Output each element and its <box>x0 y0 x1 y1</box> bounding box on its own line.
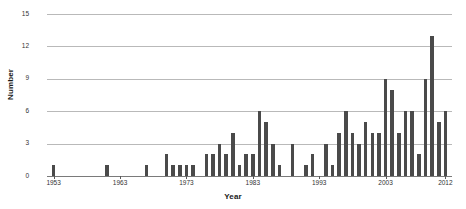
bar-1992 <box>311 154 315 176</box>
bar-2007 <box>410 111 414 176</box>
bar-1996 <box>337 133 341 176</box>
bar-1989 <box>291 144 295 176</box>
bar-1971 <box>171 165 175 176</box>
bar-1980 <box>231 133 235 176</box>
bar-1985 <box>264 122 268 176</box>
x-tick-label-2003: 2003 <box>366 180 406 187</box>
gridline-12 <box>47 46 452 47</box>
bar-1973 <box>185 165 189 176</box>
bar-1972 <box>178 165 182 176</box>
bar-1953 <box>52 165 56 176</box>
bar-1997 <box>344 111 348 176</box>
bar-1986 <box>271 144 275 176</box>
bar-2003 <box>384 79 388 176</box>
bar-1967 <box>145 165 149 176</box>
bar-1995 <box>331 165 335 176</box>
bar-2001 <box>371 133 375 176</box>
bar-1983 <box>251 154 255 176</box>
bar-chart: Number 15129630 195319631973198319932003… <box>0 0 466 209</box>
x-tick-label-1953: 1953 <box>34 180 74 187</box>
gridline-9 <box>47 79 452 80</box>
bar-2011 <box>437 122 441 176</box>
bar-1974 <box>191 165 195 176</box>
bar-1987 <box>278 165 282 176</box>
bar-2002 <box>377 133 381 176</box>
gridline-0 <box>47 176 452 177</box>
bar-1970 <box>165 154 169 176</box>
y-tick-label-6: 6 <box>15 108 29 115</box>
x-tick-label-1973: 1973 <box>166 180 206 187</box>
gridline-15 <box>47 14 452 15</box>
y-tick-label-0: 0 <box>15 173 29 180</box>
x-tick-label-2012: 2012 <box>425 180 465 187</box>
y-axis-title: Number <box>6 55 15 115</box>
bar-1998 <box>351 133 355 176</box>
plot-area: 15129630 1953196319731983199320032012 <box>47 14 452 176</box>
bar-2000 <box>364 122 368 176</box>
x-tick-label-1993: 1993 <box>299 180 339 187</box>
bar-1978 <box>218 144 222 176</box>
bar-2004 <box>390 90 394 176</box>
bar-1981 <box>238 165 242 176</box>
bar-1976 <box>205 154 209 176</box>
bar-1961 <box>105 165 109 176</box>
bar-1984 <box>258 111 262 176</box>
bar-1994 <box>324 144 328 176</box>
y-tick-label-9: 9 <box>15 75 29 82</box>
bar-2009 <box>424 79 428 176</box>
bar-2008 <box>417 154 421 176</box>
bar-2012 <box>444 111 448 176</box>
x-tick-label-1963: 1963 <box>100 180 140 187</box>
bar-1982 <box>244 154 248 176</box>
bar-2006 <box>404 111 408 176</box>
bar-1991 <box>304 165 308 176</box>
bar-1999 <box>357 144 361 176</box>
y-tick-label-12: 12 <box>15 43 29 50</box>
bar-2010 <box>430 36 434 176</box>
y-tick-label-15: 15 <box>15 11 29 18</box>
x-tick-label-1983: 1983 <box>233 180 273 187</box>
y-tick-label-3: 3 <box>15 140 29 147</box>
bar-2005 <box>397 133 401 176</box>
bar-1979 <box>224 154 228 176</box>
x-axis-title: Year <box>0 192 466 201</box>
bar-1977 <box>211 154 215 176</box>
